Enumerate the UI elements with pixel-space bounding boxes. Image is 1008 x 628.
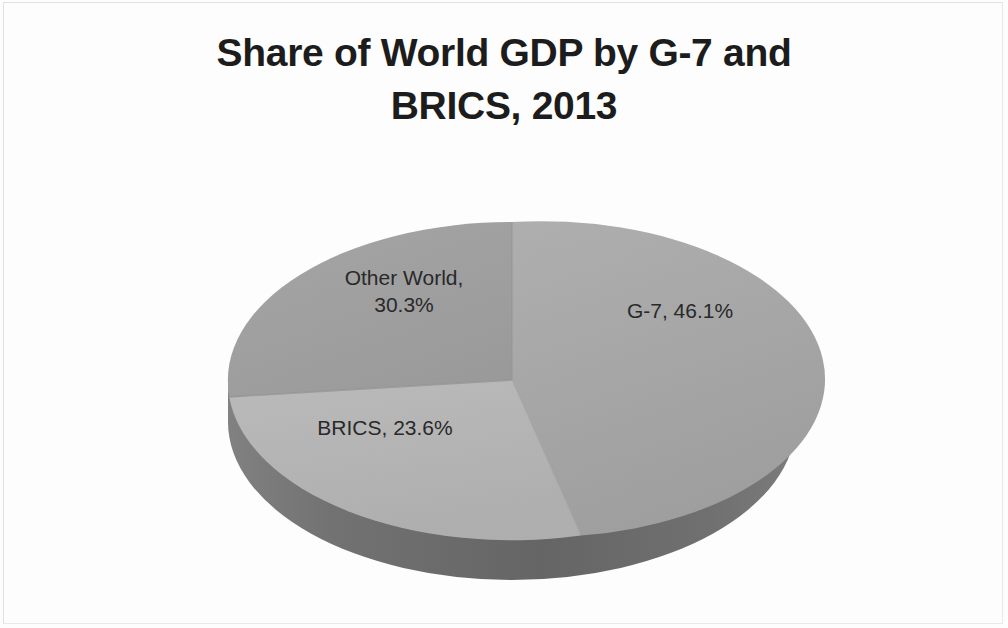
- pie-label-other-world: Other World,30.3%: [297, 264, 511, 318]
- pie-label-g7: G-7, 46.1%: [585, 297, 775, 324]
- pie-graphic: Other World,30.3% G-7, 46.1% BRICS, 23.6…: [0, 0, 1008, 628]
- chart-page: Share of World GDP by G-7 andBRICS, 2013: [0, 0, 1008, 628]
- pie-label-other-world-line-1: Other World,: [345, 266, 464, 289]
- pie-chart: Share of World GDP by G-7 andBRICS, 2013: [0, 0, 1008, 628]
- pie-label-other-world-line-2: 30.3%: [374, 293, 434, 316]
- pie-label-brics: BRICS, 23.6%: [275, 414, 495, 441]
